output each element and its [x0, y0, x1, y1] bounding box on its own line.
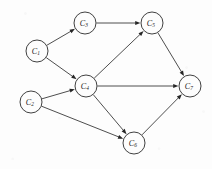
node-subscript-c4: 4	[86, 85, 89, 91]
node-subscript-c5: 5	[152, 22, 155, 28]
edge-c2-to-c4	[42, 89, 75, 99]
node-subscript-c1: 1	[37, 50, 40, 56]
edge-c6-to-c7	[142, 94, 182, 135]
edge-c1-to-c3	[47, 29, 75, 45]
arrowhead	[69, 29, 75, 33]
edge-c2-to-c6	[42, 106, 124, 138]
edge-c4-to-c5	[94, 31, 143, 78]
arrowhead	[71, 75, 76, 80]
arrowhead	[69, 89, 75, 93]
node-c2[interactable]: C2	[20, 91, 42, 113]
node-subscript-c2: 2	[31, 101, 34, 107]
arrowhead	[173, 84, 178, 88]
graph-figure: C1C2C3C4C5C6C7	[0, 0, 212, 169]
edge-c4-to-c6	[93, 95, 126, 134]
node-c7[interactable]: C7	[179, 75, 201, 97]
node-c1[interactable]: C1	[26, 40, 48, 62]
arrowhead	[118, 135, 124, 139]
edge-c3-to-c5	[96, 21, 140, 25]
node-c6[interactable]: C6	[123, 132, 145, 154]
node-c3[interactable]: C3	[74, 12, 96, 34]
node-subscript-c3: 3	[84, 22, 88, 28]
node-subscript-c6: 6	[134, 142, 137, 148]
edge-c4-to-c7	[97, 84, 178, 88]
node-c5[interactable]: C5	[141, 12, 163, 34]
node-c4[interactable]: C4	[75, 75, 97, 97]
edge-layer	[42, 21, 184, 139]
arrowhead	[135, 21, 140, 25]
arrowhead	[180, 71, 184, 76]
edge-c5-to-c7	[158, 33, 184, 76]
edge-c1-to-c4	[46, 58, 76, 80]
node-layer: C1C2C3C4C5C6C7	[20, 12, 201, 154]
node-subscript-c7: 7	[190, 85, 193, 91]
graph-canvas: C1C2C3C4C5C6C7	[0, 0, 212, 169]
